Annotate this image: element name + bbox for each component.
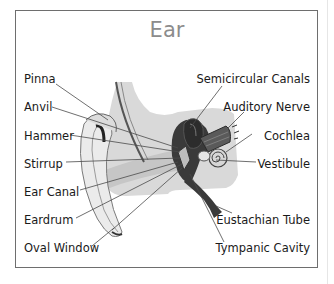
label-semicircular-canals: Semicircular Canals <box>196 72 310 86</box>
label-ear-canal: Ear Canal <box>24 185 79 199</box>
label-stirrup: Stirrup <box>24 157 63 171</box>
vestibule-shape <box>198 151 210 161</box>
label-hammer: Hammer <box>24 129 74 143</box>
label-tympanic-cavity: Tympanic Cavity <box>216 241 310 255</box>
label-vestibule: Vestibule <box>257 157 310 171</box>
label-cochlea: Cochlea <box>264 129 310 143</box>
label-auditory-nerve: Auditory Nerve <box>223 100 310 114</box>
label-eardrum: Eardrum <box>24 213 73 227</box>
label-eustachian-tube: Eustachian Tube <box>216 213 310 227</box>
label-pinna: Pinna <box>24 72 56 86</box>
label-anvil: Anvil <box>24 100 52 114</box>
label-oval-window: Oval Window <box>24 241 99 255</box>
